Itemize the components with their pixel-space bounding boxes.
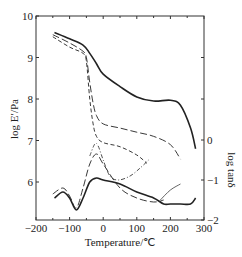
y2-tick-label: 0 [207, 134, 213, 146]
y-tick-label: 7 [28, 135, 34, 147]
plot-border [36, 16, 204, 220]
series-line-1 [53, 35, 181, 160]
dma-chart: −200−10001002003006789100−1−2 Temperatur… [0, 0, 242, 257]
series-group [53, 33, 196, 210]
series-line-6 [160, 184, 180, 200]
y-tick-label: 9 [28, 52, 34, 64]
plot-frame [36, 16, 204, 220]
x-tick-label: −100 [58, 222, 81, 234]
y-tick-label: 8 [28, 93, 34, 105]
x-tick-label: 100 [129, 222, 146, 234]
y2-tick-label: −1 [207, 174, 219, 186]
y2-axis-title: log tanδ [226, 152, 238, 187]
x-tick-label: 0 [100, 222, 106, 234]
x-tick-label: −200 [25, 222, 48, 234]
y-tick-label: 10 [22, 10, 34, 22]
y-axis-title: log E′/Pa [8, 99, 20, 139]
y-tick-label: 6 [28, 176, 34, 188]
x-tick-label: 200 [162, 222, 179, 234]
series-line-5 [90, 143, 149, 180]
series-line-2 [53, 37, 147, 164]
x-axis-title: Temperature/℃ [85, 236, 155, 248]
series-line-3 [54, 178, 195, 210]
y2-tick-label: −2 [207, 214, 219, 226]
